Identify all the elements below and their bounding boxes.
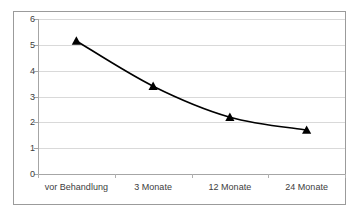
- y-axis-line: [38, 19, 39, 175]
- x-tick-label-vor-behandlung: vor Behandlung: [38, 182, 115, 193]
- y-axis-tick-labels: 6 5 4 3 2 1 0: [10, 19, 35, 174]
- y-tick-label-0: 0: [13, 170, 35, 179]
- y-tick-label-4: 4: [13, 67, 35, 76]
- x-tick-label-24-monate: 24 Monate: [268, 182, 345, 193]
- y-tick-label-1: 1: [13, 144, 35, 153]
- gridline-y-3: [38, 97, 345, 98]
- gridline-y-6: [38, 19, 345, 20]
- x-tick-mark-4: [345, 174, 346, 178]
- y-tick-label-5: 5: [13, 41, 35, 50]
- gridline-y-4: [38, 71, 345, 72]
- x-tick-mark-2: [192, 174, 193, 178]
- gridline-y-5: [38, 45, 345, 46]
- y-tick-label-2: 2: [13, 118, 35, 127]
- x-tick-mark-1: [115, 174, 116, 178]
- y-tick-label-6: 6: [13, 15, 35, 24]
- x-tick-label-3-monate: 3 Monate: [115, 182, 192, 193]
- gridline-y-2: [38, 122, 345, 123]
- plot-area: [38, 19, 345, 174]
- x-tick-mark-3: [268, 174, 269, 178]
- gridline-y-1: [38, 148, 345, 149]
- x-tick-mark-0: [38, 174, 39, 178]
- chart-figure: 6 5 4 3 2 1 0 vor Behandlung 3 Monate 12…: [0, 0, 361, 218]
- y-tick-label-3: 3: [13, 93, 35, 102]
- x-tick-label-12-monate: 12 Monate: [192, 182, 269, 193]
